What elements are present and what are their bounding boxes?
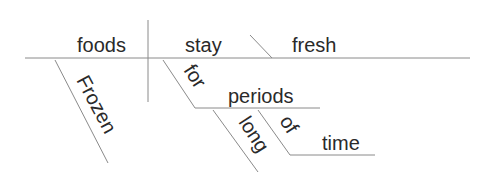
object-modifier-word: long bbox=[235, 112, 274, 156]
complement-word: fresh bbox=[292, 34, 336, 56]
preposition2-word: of bbox=[276, 111, 304, 137]
subject-modifier-word: Frozen bbox=[72, 72, 121, 137]
subject-word: foods bbox=[77, 34, 126, 56]
sentence-diagram: foods stay fresh Frozen for periods long… bbox=[0, 0, 496, 184]
prep-object2-word: time bbox=[322, 132, 360, 154]
preposition-word: for bbox=[180, 60, 211, 92]
verb-word: stay bbox=[185, 34, 222, 56]
complement-divider bbox=[250, 35, 272, 58]
prep-object-word: periods bbox=[228, 85, 294, 107]
